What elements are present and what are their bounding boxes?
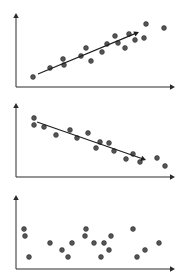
data-point [155, 156, 160, 161]
data-point [32, 116, 37, 121]
data-point [99, 255, 104, 260]
data-point [70, 241, 75, 246]
x-axis-arrow-icon [170, 84, 175, 90]
data-point [83, 234, 88, 239]
data-point [61, 57, 66, 62]
data-point [133, 38, 138, 43]
data-point [27, 255, 32, 260]
scatter-plots-svg [0, 0, 191, 279]
positive-correlation-chart [13, 13, 175, 90]
data-point [123, 46, 128, 51]
data-point [162, 26, 167, 31]
x-axis-arrow-icon [170, 174, 175, 180]
x-axis-arrow-icon [170, 266, 175, 272]
data-point [107, 248, 112, 253]
data-point [107, 141, 112, 146]
data-point [113, 34, 118, 39]
data-point [100, 50, 105, 55]
data-point [135, 255, 140, 260]
data-point [23, 234, 28, 239]
data-point [92, 241, 97, 246]
data-point [143, 248, 148, 253]
data-point [60, 248, 65, 253]
data-point [131, 227, 136, 232]
data-point [144, 22, 149, 27]
data-point [89, 59, 94, 64]
data-point [157, 241, 162, 246]
data-point [124, 157, 129, 162]
data-point [94, 146, 99, 151]
data-point [31, 75, 36, 80]
trend-line [38, 33, 136, 74]
y-axis-arrow-icon [13, 195, 19, 200]
y-axis-arrow-icon [13, 13, 19, 18]
data-point [54, 133, 59, 138]
scatter-correlation-figure [0, 0, 191, 279]
trend-line [37, 122, 143, 159]
data-point [163, 164, 168, 169]
data-point [84, 227, 89, 232]
data-point [66, 255, 71, 260]
data-point [102, 241, 107, 246]
negative-correlation-chart [13, 103, 175, 180]
data-point [86, 131, 91, 136]
data-point [109, 234, 114, 239]
data-point [22, 227, 27, 232]
data-point [142, 36, 147, 41]
no-correlation-chart [13, 195, 175, 272]
data-point [68, 128, 73, 133]
data-point [48, 241, 53, 246]
y-axis-arrow-icon [13, 103, 19, 108]
data-point [84, 46, 89, 51]
data-point [32, 123, 37, 128]
